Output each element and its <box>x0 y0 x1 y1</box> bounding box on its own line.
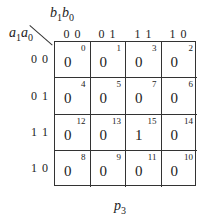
kmap-cell-10: 010 <box>162 151 198 187</box>
cell-value: 0 <box>100 163 108 180</box>
kmap-cell-0: 00 <box>55 42 91 78</box>
cell-value: 0 <box>135 90 143 107</box>
cell-index: 12 <box>77 116 86 126</box>
cell-index: 14 <box>184 116 193 126</box>
kmap-cell-12: 012 <box>55 115 91 151</box>
cell-value: 0 <box>64 163 72 180</box>
row-var-1: a <box>9 25 16 40</box>
kmap-cell-14: 014 <box>162 115 198 151</box>
kmap-cell-2: 02 <box>162 42 198 78</box>
cell-index: 3 <box>152 43 157 53</box>
kmap-cell-3: 03 <box>126 42 162 78</box>
kmap-cell-4: 04 <box>55 78 91 114</box>
column-label-11: 1 1 <box>126 27 161 42</box>
cell-index: 2 <box>189 43 194 53</box>
cell-value: 0 <box>135 54 143 71</box>
row-label-00: 0 0 <box>28 52 52 67</box>
karnaugh-map-grid: 00 01 03 02 04 05 07 06 012 013 115 014 … <box>54 41 196 186</box>
cell-index: 1 <box>117 43 122 53</box>
output-name: p <box>114 198 121 213</box>
output-sub: 3 <box>121 205 126 216</box>
cell-value: 1 <box>135 127 143 144</box>
cell-index: 10 <box>184 152 193 162</box>
cell-value: 0 <box>100 127 108 144</box>
cell-index: 0 <box>81 43 86 53</box>
row-var-2: a <box>21 25 28 40</box>
kmap-cell-6: 06 <box>162 78 198 114</box>
cell-value: 0 <box>135 163 143 180</box>
cell-value: 0 <box>64 127 72 144</box>
cell-value: 0 <box>100 90 108 107</box>
cell-value: 0 <box>100 54 108 71</box>
cell-index: 11 <box>148 152 157 162</box>
kmap-cell-7: 07 <box>126 78 162 114</box>
cell-index: 15 <box>148 116 157 126</box>
kmap-cell-11: 011 <box>126 151 162 187</box>
cell-index: 8 <box>81 152 86 162</box>
cell-value: 0 <box>171 90 179 107</box>
cell-index: 6 <box>189 79 194 89</box>
column-label-10: 1 0 <box>161 27 196 42</box>
cell-value: 0 <box>64 90 72 107</box>
cell-value: 0 <box>171 54 179 71</box>
output-function-label: p3 <box>114 198 126 216</box>
row-label-01: 0 1 <box>28 89 52 104</box>
row-var-2-sub: 0 <box>28 32 33 43</box>
column-label-00: 0 0 <box>55 27 90 42</box>
cell-index: 4 <box>81 79 86 89</box>
kmap-cell-9: 09 <box>91 151 127 187</box>
kmap-cell-8: 08 <box>55 151 91 187</box>
row-label-10: 1 0 <box>28 161 52 176</box>
kmap-cell-1: 01 <box>91 42 127 78</box>
row-label-11: 1 1 <box>28 125 52 140</box>
kmap-cell-13: 013 <box>91 115 127 151</box>
kmap-cell-15: 115 <box>126 115 162 151</box>
cell-index: 5 <box>117 79 122 89</box>
cell-index: 9 <box>117 152 122 162</box>
cell-value: 0 <box>171 163 179 180</box>
column-label-01: 0 1 <box>90 27 125 42</box>
row-variables-label: a1a0 <box>9 25 33 43</box>
cell-index: 7 <box>152 79 157 89</box>
cell-value: 0 <box>171 127 179 144</box>
col-var-2: b <box>62 5 69 20</box>
col-var-2-sub: 0 <box>69 12 74 23</box>
cell-index: 13 <box>112 116 121 126</box>
kmap-cell-5: 05 <box>91 78 127 114</box>
cell-value: 0 <box>64 54 72 71</box>
col-var-1: b <box>50 5 57 20</box>
column-variables-label: b1b0 <box>50 5 74 23</box>
